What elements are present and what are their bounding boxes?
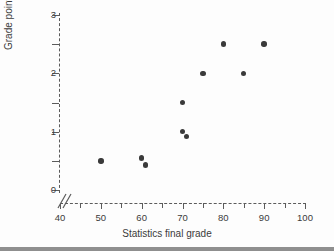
x-tick-mark — [305, 203, 306, 209]
x-tick-mark-minor — [244, 203, 245, 208]
y-tick-mark-minor — [52, 44, 59, 45]
y-tick-mark-minor — [52, 161, 59, 162]
x-tick-mark-minor — [203, 203, 204, 208]
x-tick-mark-minor — [162, 203, 163, 208]
x-tick-label: 80 — [218, 211, 229, 224]
y-tick-label: 3 — [51, 8, 56, 21]
data-point — [139, 155, 144, 160]
data-point — [221, 41, 226, 46]
y-axis-title: Grade point average — [3, 0, 14, 50]
y-tick-mark-minor — [52, 103, 59, 104]
plot-area: 0123 405060708090100 — [60, 15, 305, 190]
x-tick-mark-minor — [121, 203, 122, 208]
data-point — [200, 71, 205, 76]
x-tick-mark — [223, 203, 224, 209]
x-tick-label: 100 — [297, 211, 313, 224]
data-point — [180, 100, 185, 105]
x-tick-mark-minor — [285, 203, 286, 208]
x-tick-label: 60 — [136, 211, 147, 224]
x-axis-title: Statistics final grade — [0, 228, 334, 239]
y-tick-label: 2 — [51, 66, 56, 79]
data-point — [241, 71, 246, 76]
x-tick-mark-minor — [80, 203, 81, 208]
x-tick-label: 90 — [259, 211, 270, 224]
data-point — [261, 41, 266, 46]
y-tick-label: 0 — [51, 183, 56, 196]
scatter-plot-figure: 0123 405060708090100 Grade point average… — [0, 0, 334, 251]
data-point — [98, 158, 103, 163]
x-tick-mark — [183, 203, 184, 209]
x-tick-label: 50 — [96, 211, 107, 224]
x-tick-mark — [60, 203, 61, 209]
x-tick-label: 70 — [177, 211, 188, 224]
x-tick-mark — [142, 203, 143, 209]
x-tick-mark — [264, 203, 265, 209]
x-tick-label: 40 — [55, 211, 66, 224]
data-point — [143, 162, 148, 167]
y-tick-label: 1 — [51, 125, 56, 138]
data-point — [184, 134, 189, 139]
page-bottom-rule — [0, 247, 334, 251]
x-tick-mark — [101, 203, 102, 209]
